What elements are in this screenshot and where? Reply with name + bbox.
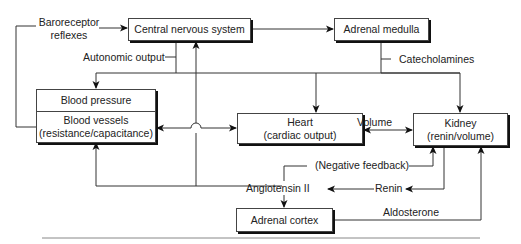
blood-pressure-section: Blood pressure <box>37 90 155 112</box>
baroreceptor-line2: reflexes <box>38 29 100 42</box>
volume-label: Volume <box>357 116 392 129</box>
adrenal-medulla-label: Adrenal medulla <box>344 23 420 36</box>
blood-vessels-line1: Blood vessels <box>64 114 129 127</box>
kidney-line1: Kidney <box>444 117 476 130</box>
kidney-line2: (renin/volume) <box>427 130 494 143</box>
autonomic-output-label: Autonomic output <box>83 51 165 64</box>
blood-pressure-vessels-box: Blood pressure Blood vessels (resistance… <box>36 89 156 143</box>
cns-label: Central nervous system <box>134 23 244 36</box>
adrenal-medulla-box: Adrenal medulla <box>334 18 429 41</box>
baroreceptor-label: Baroreceptor reflexes <box>38 16 100 42</box>
kidney-box: Kidney (renin/volume) <box>413 113 508 146</box>
aldosterone-label: Aldosterone <box>383 206 439 219</box>
blood-pressure-label: Blood pressure <box>61 94 132 107</box>
heart-line2: (cardiac output) <box>264 129 337 142</box>
heart-box: Heart (cardiac output) <box>237 113 363 144</box>
blood-vessels-section: Blood vessels (resistance/capacitance) <box>37 112 155 142</box>
angiotensin-label: Angiotensin II <box>246 182 310 195</box>
blood-vessels-line2: (resistance/capacitance) <box>39 127 153 140</box>
heart-line1: Heart <box>287 116 313 129</box>
catecholamines-label: Catecholamines <box>399 53 474 66</box>
baroreceptor-line1: Baroreceptor <box>38 16 100 29</box>
adrenal-cortex-label: Adrenal cortex <box>251 214 319 227</box>
renin-label: Renin <box>375 182 402 195</box>
negative-feedback-label: (Negative feedback) <box>315 159 409 172</box>
cns-box: Central nervous system <box>128 18 251 41</box>
adrenal-cortex-box: Adrenal cortex <box>236 208 333 232</box>
